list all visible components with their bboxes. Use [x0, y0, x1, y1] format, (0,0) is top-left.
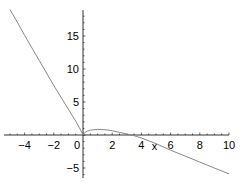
- tick-labels: −4−20246810x−551015: [18, 30, 235, 174]
- function-plot: −4−20246810x−551015: [0, 0, 245, 185]
- y-tick-label: 5: [73, 96, 79, 108]
- x-tick-label: −2: [48, 139, 61, 151]
- x-tick-label: 0: [74, 139, 80, 151]
- x-tick-label: 10: [223, 139, 235, 151]
- x-tick-label: 2: [109, 139, 115, 151]
- y-tick-label: −5: [66, 162, 79, 174]
- axes: [4, 10, 229, 178]
- x-tick-label: 8: [197, 139, 203, 151]
- y-tick-label: 15: [67, 30, 79, 42]
- x-tick-label: 4: [138, 139, 144, 151]
- x-tick-label: −4: [18, 139, 31, 151]
- y-tick-label: 10: [67, 63, 79, 75]
